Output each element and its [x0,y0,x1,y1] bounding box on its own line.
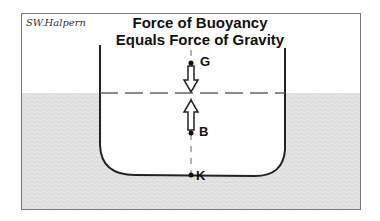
title-line-1: Force of Buoyancy [100,14,300,31]
label-g: G [200,54,210,69]
point-b [189,131,194,136]
label-b: B [199,124,208,139]
signature: SW.Halpern [26,17,86,28]
title-line-2: Equals Force of Gravity [100,31,300,48]
point-k [189,173,194,178]
point-g [189,61,194,66]
label-k: K [196,168,205,183]
diagram-title: Force of Buoyancy Equals Force of Gravit… [100,14,300,48]
